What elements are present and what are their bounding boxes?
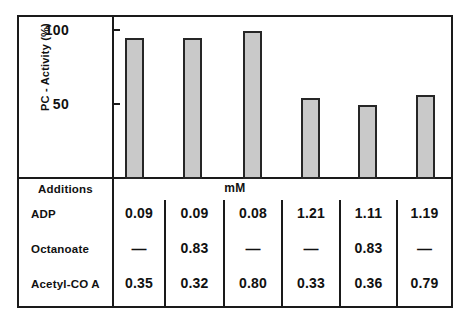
y-tick-label-100: 100 <box>9 23 69 37</box>
y-tick-mark-50 <box>112 103 120 105</box>
cell-octanoate-col4: — <box>283 241 339 256</box>
figure-frame: PC - Activity (%) 100 50 mM <box>17 15 453 308</box>
bar-chart-plot-area: PC - Activity (%) 100 50 <box>19 17 451 181</box>
cell-acetylcoa-col4: 0.33 <box>283 276 339 290</box>
cell-acetylcoa-col6: 0.79 <box>398 276 451 290</box>
y-axis-line <box>112 17 114 179</box>
cell-adp-col2: 0.09 <box>166 206 223 220</box>
conditions-table: mM Additions ADP Octanoate Acetyl-CO A 0… <box>19 179 451 306</box>
cell-adp-col5: 1.11 <box>341 206 396 220</box>
cell-adp-col6: 1.19 <box>398 206 451 220</box>
y-tick-mark-100 <box>112 29 120 31</box>
figure-root: PC - Activity (%) 100 50 mM <box>0 0 470 326</box>
bar-3 <box>243 31 262 179</box>
cell-octanoate-col1: — <box>114 241 164 256</box>
cell-acetylcoa-col3: 0.80 <box>225 276 281 290</box>
cell-adp-col4: 1.21 <box>283 206 339 220</box>
bar-6 <box>416 95 435 179</box>
row-label-adp: ADP <box>31 208 56 220</box>
cell-adp-col3: 0.08 <box>225 206 281 220</box>
cell-octanoate-col2: 0.83 <box>166 241 223 255</box>
row-label-acetyl-coa: Acetyl-CO A <box>31 278 100 290</box>
cell-adp-col1: 0.09 <box>114 206 164 220</box>
cell-acetylcoa-col1: 0.35 <box>114 276 164 290</box>
bar-1 <box>125 38 144 179</box>
row-label-octanoate: Octanoate <box>31 243 89 255</box>
cell-acetylcoa-col5: 0.36 <box>341 276 396 290</box>
cell-octanoate-col5: 0.83 <box>341 241 396 255</box>
cell-acetylcoa-col2: 0.32 <box>166 276 223 290</box>
bar-4 <box>301 98 320 179</box>
y-tick-label-50: 50 <box>9 97 69 111</box>
bar-5 <box>358 105 377 179</box>
table-header-additions: Additions <box>19 183 112 195</box>
cell-octanoate-col6: — <box>398 241 451 256</box>
cell-octanoate-col3: — <box>225 241 281 256</box>
bar-2 <box>183 38 202 179</box>
